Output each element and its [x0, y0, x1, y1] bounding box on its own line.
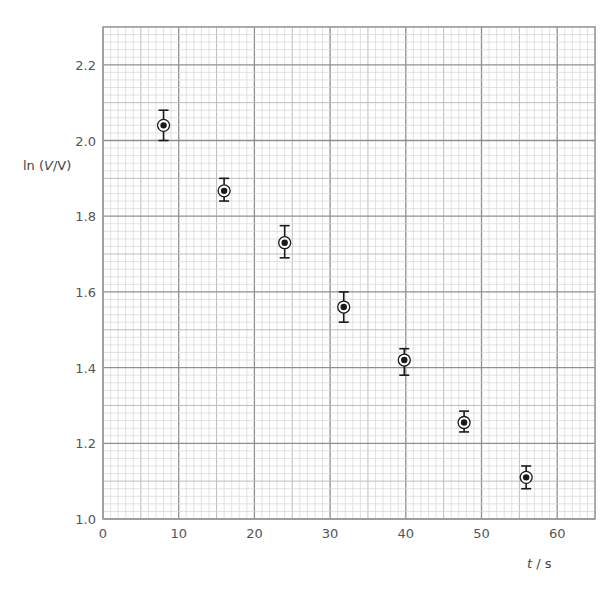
y-tick-label: 2.0 — [75, 134, 96, 149]
x-axis-label: t / s — [527, 556, 552, 571]
y-tick-label: 1.2 — [75, 436, 96, 451]
y-tick-label: 2.2 — [75, 58, 96, 73]
scatter-chart: 1.01.21.41.61.82.02.2 0102030405060 ln (… — [0, 0, 614, 593]
plot-frame — [103, 27, 595, 519]
marker-dot-icon — [401, 357, 407, 363]
y-tick-label: 1.8 — [75, 209, 96, 224]
y-tick-label: 1.6 — [75, 285, 96, 300]
marker-dot-icon — [281, 239, 287, 245]
data-point — [520, 466, 532, 489]
marker-dot-icon — [523, 474, 529, 480]
x-tick-label: 60 — [549, 526, 566, 541]
y-tick-labels: 1.01.21.41.61.82.02.2 — [75, 58, 96, 527]
y-tick-label: 1.0 — [75, 512, 96, 527]
plot-border — [103, 27, 595, 519]
marker-dot-icon — [461, 419, 467, 425]
data-point — [218, 178, 230, 201]
x-tick-label: 30 — [322, 526, 339, 541]
data-point — [338, 292, 350, 322]
marker-dot-icon — [160, 122, 166, 128]
x-tick-label: 40 — [398, 526, 415, 541]
y-tick-label: 1.4 — [75, 361, 96, 376]
x-tick-labels: 0102030405060 — [99, 526, 566, 541]
x-tick-label: 10 — [170, 526, 187, 541]
grid — [103, 27, 595, 519]
data-point — [458, 411, 470, 432]
x-tick-label: 20 — [246, 526, 263, 541]
x-tick-label: 50 — [473, 526, 490, 541]
marker-dot-icon — [341, 304, 347, 310]
marker-dot-icon — [221, 188, 227, 194]
x-tick-label: 0 — [99, 526, 107, 541]
y-axis-label: ln (V/V) — [23, 158, 71, 173]
data-point — [279, 226, 291, 258]
data-point — [158, 110, 170, 140]
